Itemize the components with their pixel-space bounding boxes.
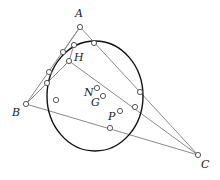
point-A — [77, 24, 82, 29]
point-B — [23, 101, 28, 106]
label-G: G — [91, 96, 100, 109]
label-C: C — [201, 158, 210, 171]
point-c6 — [53, 97, 58, 102]
point-c3 — [60, 49, 65, 54]
label-A: A — [74, 7, 83, 20]
label-H: H — [73, 51, 84, 64]
point-c9 — [132, 104, 137, 109]
point-c2 — [91, 40, 96, 45]
point-c7 — [107, 125, 112, 130]
point-H — [66, 58, 71, 63]
point-c1 — [71, 42, 76, 47]
triangle-lines — [26, 27, 198, 155]
point-G — [100, 93, 105, 98]
label-B: B — [11, 106, 20, 119]
point-P — [117, 108, 122, 113]
point-N — [94, 85, 99, 90]
point-c8 — [137, 89, 142, 94]
point-c4 — [46, 69, 51, 74]
point-C — [195, 152, 200, 157]
point-c5 — [44, 80, 49, 85]
label-P: P — [107, 110, 116, 123]
geometry-diagram: ABCHNGP — [0, 0, 220, 180]
